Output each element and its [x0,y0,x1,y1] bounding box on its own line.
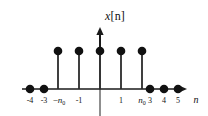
sample-marker-zero [26,85,35,94]
signal-title: x[n] [105,10,125,22]
sample-marker [138,47,147,56]
tick-label-3: 3 [148,97,152,105]
signal-title-index: [n] [110,9,125,23]
n-subscript: 0 [143,100,146,106]
tick-label-minus-n0: −n0 [53,96,66,106]
stem-group [58,52,142,89]
tick-label-n0: n0 [138,96,146,106]
sample-marker-zero [160,85,169,94]
tick-label-minus-3: -3 [41,97,48,105]
tick-label-5: 5 [176,97,180,105]
x-axis-label: n [194,95,199,105]
tick-label-4: 4 [162,97,166,105]
sample-marker-group-nonzero [54,47,147,56]
sample-marker-zero [146,85,155,94]
sample-marker [117,47,126,56]
vertical-axis-arrowhead [96,27,103,35]
n-subscript: 0 [62,100,65,106]
sample-marker [96,47,105,56]
sample-marker-zero [40,85,49,94]
sample-marker-zero [174,85,183,94]
sample-marker [54,47,63,56]
tick-label-plus-1: 1 [119,97,123,105]
sample-marker [75,47,84,56]
tick-label-minus-1: -1 [76,97,83,105]
stem-plot-figure: x[n] -4 -3 −n0 -1 1 n0 3 4 5 n [0,0,208,116]
tick-label-minus-4: -4 [27,97,34,105]
